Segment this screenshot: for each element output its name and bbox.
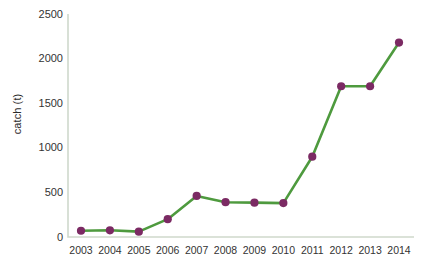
series-markers-catch [77,38,403,235]
data-point [106,226,114,234]
y-tick-label: 500 [23,187,63,198]
y-tick-label: 1500 [23,98,63,109]
data-point [395,38,403,46]
line-chart: catch (t) 05001000150020002500 200320042… [0,0,422,271]
data-point [193,192,201,200]
data-point [279,199,287,207]
data-point [308,153,316,161]
data-point [77,227,85,235]
y-tick-label: 2500 [23,9,63,20]
data-point [366,82,374,90]
data-point [337,82,345,90]
y-axis-tick-labels: 05001000150020002500 [20,0,63,271]
data-point [164,215,172,223]
series-line-catch [81,43,399,232]
x-tick-label: 2014 [376,245,422,256]
x-axis-tick-labels: 2003200420052006200720082009201020112012… [0,245,422,265]
data-point [250,199,258,207]
plot-svg [67,14,415,239]
data-point [221,198,229,206]
y-tick-label: 1000 [23,142,63,153]
plot-area [67,14,415,239]
y-tick-label: 0 [23,232,63,243]
y-tick-label: 2000 [23,53,63,64]
data-point [135,228,143,236]
